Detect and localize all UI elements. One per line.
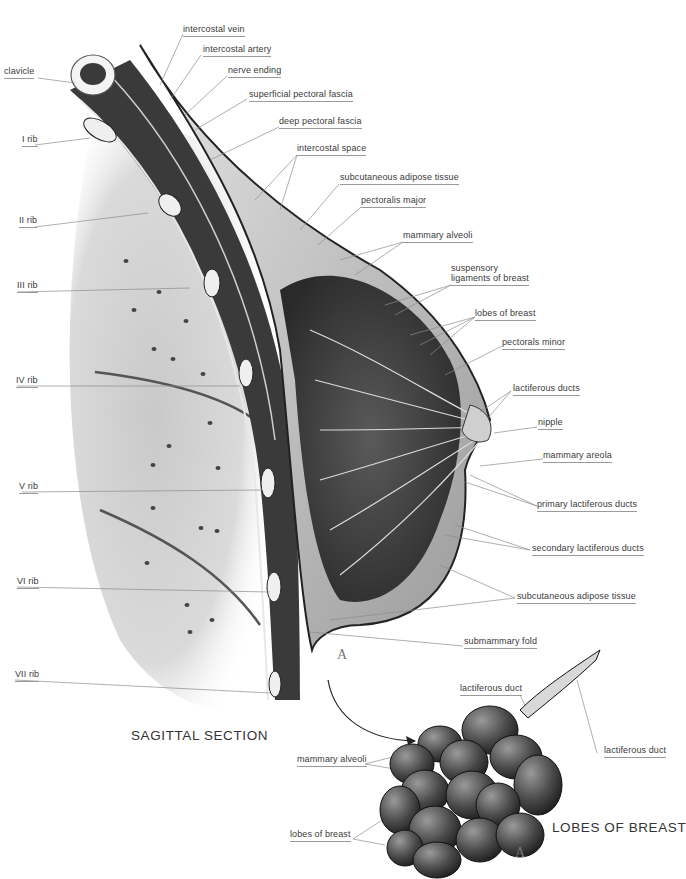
label-mammary-areola: mammary areola [543, 450, 612, 463]
label-subcutaneous-adipose-tissue-upper: subcutaneous adipose tissue [340, 172, 459, 185]
label-rib-1: I rib [22, 134, 38, 147]
label-deep-pectoral-fascia: deep pectoral fascia [279, 116, 362, 129]
label-rib-6: VI rib [17, 576, 39, 589]
label-submammary-fold: submammary fold [464, 636, 537, 649]
marker-a-inset: A [515, 845, 525, 861]
label-rib-3: III rib [17, 280, 38, 293]
label-rib-5: V rib [19, 481, 38, 494]
label-intercostal-vein: intercostal vein [183, 24, 245, 37]
label-rib-2: II rib [19, 215, 37, 228]
label-subcutaneous-adipose-tissue-lower: subcutaneous adipose tissue [517, 591, 636, 604]
label-nipple: nipple [538, 417, 563, 430]
label-inset-lobes-of-breast: lobes of breast [290, 829, 351, 842]
label-suspensory-ligaments-line2: ligaments of breast [451, 273, 529, 286]
label-inset-lactiferous-duct-right: lactiferous duct [604, 745, 666, 758]
label-intercostal-artery: intercostal artery [203, 44, 271, 57]
label-clavicle: clavicle [4, 66, 34, 79]
label-inset-mammary-alveoli: mammary alveoli [297, 754, 367, 767]
detail-arrow [328, 680, 415, 741]
label-rib-7: VII rib [15, 669, 39, 682]
label-intercostal-space: intercostal space [297, 143, 366, 156]
label-secondary-lactiferous-ducts: secondary lactiferous ducts [532, 543, 644, 556]
clavicle-bone [71, 55, 115, 95]
label-pectoralis-major: pectoralis major [361, 195, 426, 208]
marker-a-section: A [337, 647, 347, 663]
label-primary-lactiferous-ducts: primary lactiferous ducts [537, 499, 637, 512]
label-rib-4: IV rib [16, 375, 38, 388]
label-pectorals-minor: pectorals minor [502, 337, 565, 350]
label-nerve-ending: nerve ending [228, 65, 281, 78]
label-inset-lactiferous-duct-top: lactiferous duct [460, 683, 522, 696]
label-lobes-of-breast: lobes of breast [475, 308, 536, 321]
label-lactiferous-ducts: lactiferous ducts [513, 383, 580, 396]
label-mammary-alveoli: mammary alveoli [403, 230, 473, 243]
title-sagittal-section: SAGITTAL SECTION [131, 728, 268, 743]
label-superficial-pectoral-fascia: superficial pectoral fascia [249, 89, 353, 102]
title-lobes-of-breast: LOBES OF BREAST [552, 820, 686, 835]
